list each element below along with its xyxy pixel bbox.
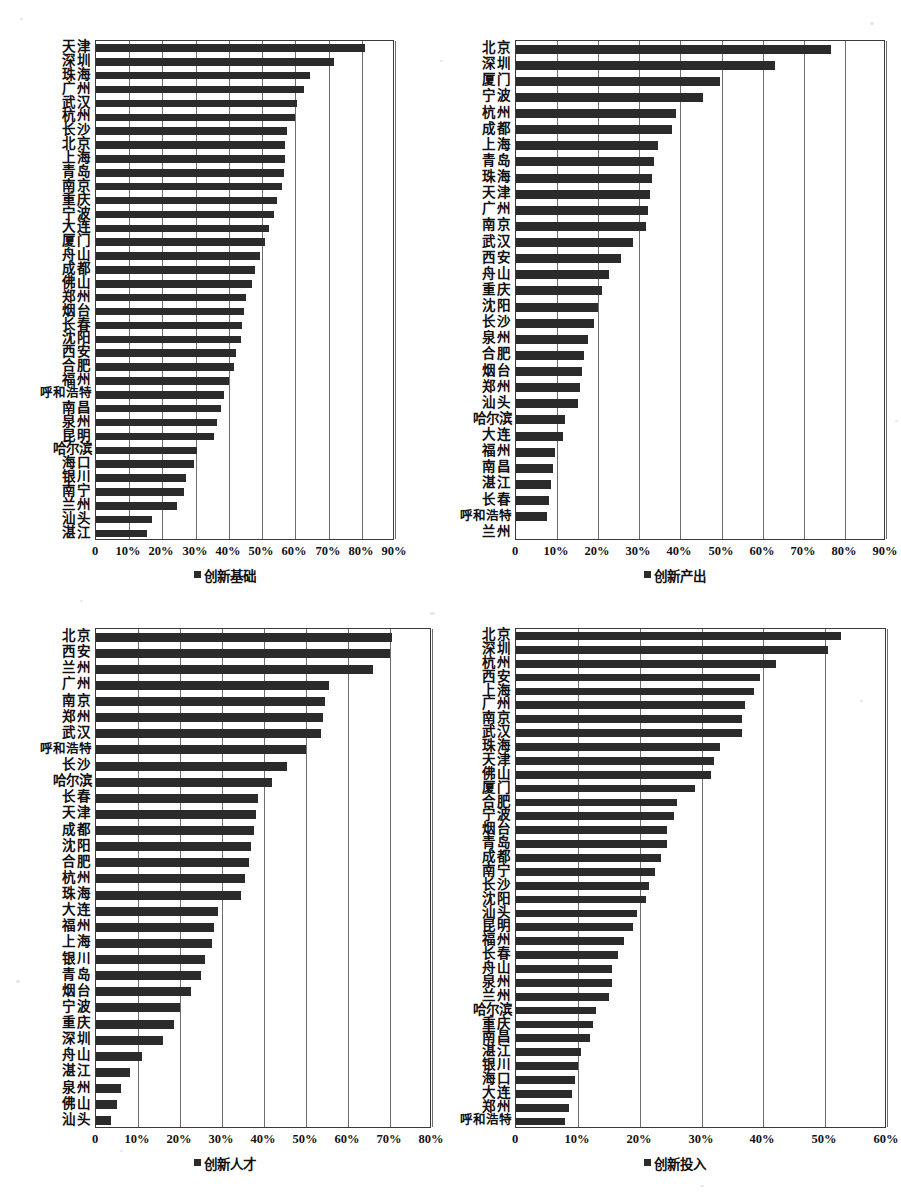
x-tick-label: 10% <box>565 1132 590 1147</box>
category-label: 银川 <box>18 470 95 484</box>
x-tick-label: 20% <box>149 544 174 559</box>
category-label: 成都 <box>18 262 95 276</box>
bar-合肥 <box>96 858 249 867</box>
table-row <box>96 694 430 710</box>
table-row <box>516 671 885 685</box>
category-label: 长沙 <box>440 878 515 892</box>
table-row <box>96 823 430 839</box>
x-axis-chart-innovation-input: 010%20%30%40%50%60% <box>515 1132 886 1152</box>
bar-哈尔滨 <box>96 778 272 787</box>
table-row <box>516 962 885 976</box>
bar-rows <box>516 41 884 539</box>
category-label: 舟山 <box>440 961 515 975</box>
category-label: 汕头 <box>440 395 515 411</box>
bar-武汉 <box>516 238 633 247</box>
table-row <box>96 332 393 346</box>
table-row <box>96 790 430 806</box>
x-tick-label: 20% <box>627 1132 652 1147</box>
x-tick-label: 70% <box>316 544 341 559</box>
bar-烟台 <box>516 826 667 834</box>
category-label: 泉州 <box>440 330 515 346</box>
category-label: 南京 <box>18 179 95 193</box>
table-row <box>96 124 393 138</box>
category-label: 厦门 <box>440 72 515 88</box>
bar-rows <box>96 41 393 539</box>
bar-重庆 <box>96 1020 174 1029</box>
table-row <box>516 122 884 138</box>
bar-杭州 <box>516 660 776 668</box>
table-row <box>96 1097 430 1113</box>
category-label: 珠海 <box>440 169 515 185</box>
category-label: 天津 <box>18 40 95 54</box>
table-row <box>96 55 393 69</box>
table-row <box>96 485 393 499</box>
category-label: 珠海 <box>18 886 95 902</box>
category-label: 大连 <box>18 902 95 918</box>
table-row <box>96 277 393 291</box>
bar-北京 <box>96 633 392 642</box>
category-label: 宁波 <box>440 88 515 104</box>
bar-rows <box>516 629 885 1127</box>
bar-宁波 <box>96 211 274 219</box>
table-row <box>516 851 885 865</box>
table-row <box>96 1000 430 1016</box>
category-label: 上海 <box>440 137 515 153</box>
bar-成都 <box>96 826 254 835</box>
bar-宁波 <box>516 93 703 102</box>
bar-兰州 <box>96 665 373 674</box>
table-row <box>96 194 393 208</box>
bar-银川 <box>516 1062 578 1070</box>
table-row <box>96 291 393 305</box>
table-row <box>516 1073 885 1087</box>
table-row <box>96 235 393 249</box>
table-row <box>96 83 393 97</box>
table-row <box>516 41 884 57</box>
category-label: 呼和浩特 <box>440 508 515 524</box>
table-row <box>516 879 885 893</box>
category-label: 长春 <box>18 789 95 805</box>
table-row <box>516 283 884 299</box>
table-row <box>96 806 430 822</box>
bar-南宁 <box>96 488 184 496</box>
bar-湛江 <box>516 1048 581 1056</box>
bar-合肥 <box>516 799 677 807</box>
table-row <box>96 742 430 758</box>
bar-呼和浩特 <box>96 391 224 399</box>
x-tick-label: 10% <box>116 544 141 559</box>
x-tick-label: 10% <box>125 1132 150 1147</box>
category-label: 西安 <box>440 250 515 266</box>
bar-郑州 <box>96 713 323 722</box>
table-row <box>96 374 393 388</box>
category-label: 泉州 <box>18 1080 95 1096</box>
bar-湛江 <box>516 480 551 489</box>
bar-广州 <box>96 86 304 94</box>
bar-大连 <box>96 907 218 916</box>
category-label: 合肥 <box>440 346 515 362</box>
category-label: 广州 <box>440 201 515 217</box>
chart-innovation-output: 北京深圳厦门宁波杭州成都上海青岛珠海天津广州南京武汉西安舟山重庆沈阳长沙泉州合肥… <box>450 0 900 600</box>
category-label: 银川 <box>440 1058 515 1072</box>
x-tick-label: 0 <box>92 544 98 559</box>
category-label: 重庆 <box>18 1015 95 1031</box>
table-row <box>516 428 884 444</box>
table-row <box>96 710 430 726</box>
table-row <box>516 218 884 234</box>
table-row <box>516 698 885 712</box>
category-label: 西安 <box>440 670 515 684</box>
bar-深圳 <box>516 61 775 70</box>
table-row <box>96 661 430 677</box>
table-row <box>96 443 393 457</box>
bar-沈阳 <box>96 336 241 344</box>
table-row <box>516 493 884 509</box>
bar-舟山 <box>96 1052 142 1061</box>
category-label: 烟台 <box>18 304 95 318</box>
category-label: 广州 <box>18 82 95 96</box>
bar-南京 <box>96 697 325 706</box>
table-row <box>96 221 393 235</box>
bar-杭州 <box>516 109 676 118</box>
bar-杭州 <box>96 874 245 883</box>
table-row <box>516 89 884 105</box>
bar-北京 <box>516 45 831 54</box>
x-axis-chart-innovation-output: 010%20%30%40%50%60%70%80%90% <box>515 544 885 564</box>
bar-福州 <box>96 923 214 932</box>
